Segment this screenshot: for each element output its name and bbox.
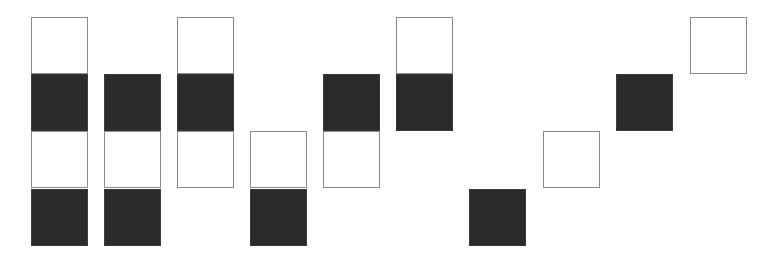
filled-square-c2-r2 [104,74,161,131]
empty-square-c8-r3 [543,131,600,188]
empty-square-c5-r3 [323,131,380,188]
filled-square-c3-r2 [177,74,234,131]
filled-square-c7-r4 [469,189,526,246]
empty-square-c6-r1 [396,17,453,74]
filled-square-c9-r2 [616,74,673,131]
empty-square-c3-r1 [177,17,234,74]
empty-square-c10-r1 [690,17,747,74]
empty-square-c1-r1 [31,17,88,74]
filled-square-c6-r2 [396,74,453,131]
filled-square-c1-r2 [31,74,88,131]
block-pattern-diagram [0,0,776,263]
empty-square-c4-r3 [250,131,307,188]
empty-square-c2-r3 [104,131,161,188]
empty-square-c1-r3 [31,131,88,188]
filled-square-c4-r4 [250,189,307,246]
filled-square-c5-r2 [323,74,380,131]
filled-square-c2-r4 [104,189,161,246]
empty-square-c3-r3 [177,131,234,188]
filled-square-c1-r4 [31,189,88,246]
